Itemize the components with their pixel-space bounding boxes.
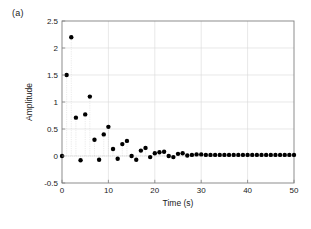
y-tick-label: 1: [54, 98, 59, 107]
x-tick-label: 30: [197, 186, 206, 195]
data-point: [283, 153, 287, 157]
data-point: [190, 153, 194, 157]
data-point: [97, 158, 101, 162]
data-point: [143, 146, 147, 150]
y-tick-label: 0: [54, 152, 59, 161]
data-point: [111, 147, 115, 151]
x-axis-title: Time (s): [163, 198, 194, 208]
data-point: [171, 155, 175, 159]
data-point: [74, 115, 78, 119]
data-point: [139, 148, 143, 152]
plot-content: 01020304050-0.500.511.522.5Time (s)Ampli…: [24, 17, 299, 208]
data-point: [259, 153, 263, 157]
data-point: [273, 153, 277, 157]
data-point: [292, 153, 296, 157]
data-point: [167, 154, 171, 158]
scatter-plot: 01020304050-0.500.511.522.5Time (s)Ampli…: [0, 0, 311, 229]
data-point: [134, 158, 138, 162]
data-point: [227, 153, 231, 157]
gridlines: [62, 21, 294, 183]
x-tick-label: 0: [60, 186, 65, 195]
y-tick-label: 2.5: [47, 17, 59, 26]
data-point: [153, 151, 157, 155]
x-tick-label: 20: [150, 186, 159, 195]
data-point: [269, 153, 273, 157]
x-tick-label: 10: [104, 186, 113, 195]
data-point: [231, 153, 235, 157]
data-point: [176, 152, 180, 156]
stems: [67, 37, 294, 160]
data-point: [102, 132, 106, 136]
data-point: [185, 153, 189, 157]
data-point: [204, 153, 208, 157]
data-point: [245, 153, 249, 157]
data-point: [222, 153, 226, 157]
figure-panel: (a) 01020304050-0.500.511.522.5Time (s)A…: [0, 0, 311, 229]
data-point: [180, 151, 184, 155]
data-point: [241, 153, 245, 157]
data-point: [208, 153, 212, 157]
data-point: [278, 153, 282, 157]
axis-ticks: 01020304050-0.500.511.522.5: [44, 17, 299, 195]
data-point: [287, 153, 291, 157]
y-axis-title: Amplitude: [24, 83, 34, 121]
data-point: [83, 112, 87, 116]
data-markers: [60, 35, 296, 163]
data-point: [125, 139, 129, 143]
x-tick-label: 50: [290, 186, 299, 195]
data-point: [218, 153, 222, 157]
data-point: [69, 35, 73, 39]
data-point: [264, 153, 268, 157]
data-point: [213, 153, 217, 157]
y-tick-label: -0.5: [44, 179, 58, 188]
data-point: [78, 158, 82, 162]
data-point: [236, 153, 240, 157]
y-tick-label: 2: [54, 44, 59, 53]
data-point: [199, 152, 203, 156]
data-point: [92, 138, 96, 142]
data-point: [250, 153, 254, 157]
data-point: [255, 153, 259, 157]
data-point: [162, 149, 166, 153]
x-tick-label: 40: [243, 186, 252, 195]
data-point: [129, 154, 133, 158]
y-tick-label: 1.5: [47, 71, 59, 80]
data-point: [157, 150, 161, 154]
data-point: [106, 125, 110, 129]
data-point: [194, 152, 198, 156]
data-point: [120, 142, 124, 146]
data-point: [88, 94, 92, 98]
y-tick-label: 0.5: [47, 125, 59, 134]
data-point: [148, 155, 152, 159]
data-point: [115, 157, 119, 161]
